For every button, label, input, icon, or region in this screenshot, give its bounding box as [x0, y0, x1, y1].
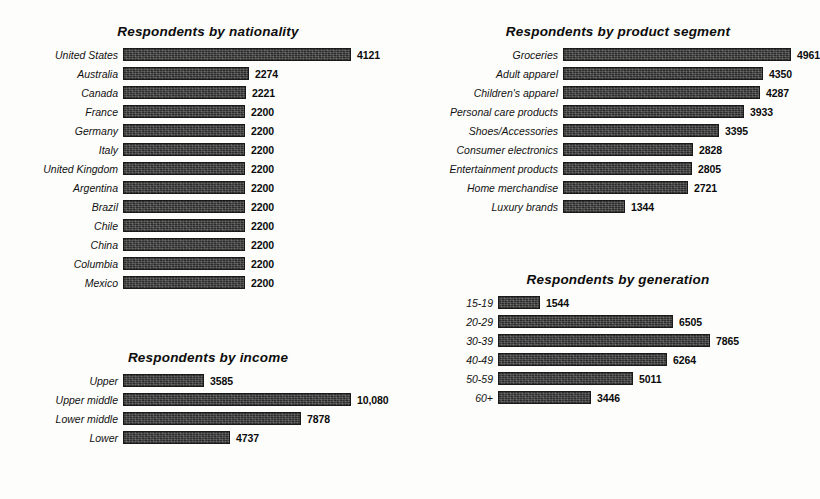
bar-value-label: 3446 [591, 392, 620, 404]
bar [123, 238, 245, 251]
bar-value-label: 4737 [230, 432, 259, 444]
bar [563, 86, 760, 99]
bar-and-value: 3933 [563, 105, 773, 118]
bar-and-value: 1344 [563, 200, 654, 213]
bar [123, 181, 245, 194]
bar-and-value: 2200 [123, 257, 274, 270]
bar-category-label: Chile [8, 220, 123, 232]
bar-and-value: 2200 [123, 162, 274, 175]
bar-category-label: Lower [8, 432, 123, 444]
bar-value-label: 2721 [688, 182, 717, 194]
bar-and-value: 2828 [563, 143, 722, 156]
bar-value-label: 2200 [245, 144, 274, 156]
bar-value-label: 2200 [245, 106, 274, 118]
bar-category-label: China [8, 239, 123, 251]
bar-row: Columbia2200 [8, 255, 408, 272]
bar-value-label: 2200 [245, 277, 274, 289]
chart-panel-product-segment: Respondents by product segment Groceries… [418, 24, 818, 217]
bar-and-value: 3585 [123, 374, 233, 387]
bar-row: Home merchandise2721 [418, 179, 818, 196]
bar-and-value: 2200 [123, 105, 274, 118]
bar-and-value: 4961 [563, 48, 820, 61]
chart-title-nationality: Respondents by nationality [8, 24, 408, 39]
bar-value-label: 1544 [540, 297, 569, 309]
bar-row: Argentina2200 [8, 179, 408, 196]
bar-category-label: Luxury brands [418, 201, 563, 213]
bar-row: Chile2200 [8, 217, 408, 234]
bar-row: United Kingdom2200 [8, 160, 408, 177]
chart-panel-generation: Respondents by generation 15-19154420-29… [418, 272, 818, 408]
bar-value-label: 4350 [763, 68, 792, 80]
bar-row: 50-595011 [418, 370, 818, 387]
bar [123, 257, 245, 270]
bar-category-label: Children's apparel [418, 87, 563, 99]
bar-value-label: 6264 [667, 354, 696, 366]
bar-row: Shoes/Accessories3395 [418, 122, 818, 139]
bar-category-label: United Kingdom [8, 163, 123, 175]
bar-row: 30-397865 [418, 332, 818, 349]
bar-and-value: 2274 [123, 67, 278, 80]
bar [498, 353, 667, 366]
bar-row: France2200 [8, 103, 408, 120]
bar-and-value: 2200 [123, 181, 274, 194]
bar-category-label: 50-59 [418, 373, 498, 385]
bar-value-label: 1344 [625, 201, 654, 213]
bar-and-value: 1544 [498, 296, 569, 309]
bar-category-label: Canada [8, 87, 123, 99]
bar-and-value: 7865 [498, 334, 739, 347]
bar-value-label: 2274 [249, 68, 278, 80]
bar-category-label: Lower middle [8, 413, 123, 425]
bar-value-label: 2200 [245, 239, 274, 251]
bar-row: Luxury brands1344 [418, 198, 818, 215]
bar-category-label: Personal care products [418, 106, 563, 118]
bar-value-label: 3585 [204, 375, 233, 387]
bar-and-value: 3395 [563, 124, 748, 137]
bar-row: Germany2200 [8, 122, 408, 139]
bar-and-value: 4350 [563, 67, 792, 80]
bar [563, 200, 625, 213]
chart-title-product-segment: Respondents by product segment [418, 24, 818, 39]
bar-row: Groceries4961 [418, 46, 818, 63]
bar-row: Lower4737 [8, 429, 408, 446]
bar [123, 393, 351, 406]
bar [563, 162, 692, 175]
bar [498, 391, 591, 404]
bar-value-label: 3933 [744, 106, 773, 118]
bar-row: Brazil2200 [8, 198, 408, 215]
bar-and-value: 2200 [123, 200, 274, 213]
chart-title-income: Respondents by income [8, 350, 408, 365]
bar-value-label: 7865 [710, 335, 739, 347]
chart-title-generation: Respondents by generation [418, 272, 818, 287]
bar [498, 372, 633, 385]
bar-category-label: 15-19 [418, 297, 498, 309]
bar-value-label: 2805 [692, 163, 721, 175]
bar-row: Adult apparel4350 [418, 65, 818, 82]
bar-rows-income: Upper3585Upper middle10,080Lower middle7… [8, 372, 408, 446]
bar-category-label: 30-39 [418, 335, 498, 347]
bar-value-label: 10,080 [351, 394, 389, 406]
bar [123, 431, 230, 444]
bar [563, 124, 719, 137]
bar-and-value: 2221 [123, 86, 275, 99]
bar-and-value: 2805 [563, 162, 721, 175]
bar-category-label: Consumer electronics [418, 144, 563, 156]
bar-value-label: 2200 [245, 125, 274, 137]
bar [123, 105, 245, 118]
bar-row: Upper middle10,080 [8, 391, 408, 408]
bar-row: 20-296505 [418, 313, 818, 330]
bar-value-label: 4287 [760, 87, 789, 99]
bar-value-label: 2200 [245, 163, 274, 175]
bar [498, 296, 540, 309]
bar-and-value: 4121 [123, 48, 380, 61]
bar-and-value: 3446 [498, 391, 620, 404]
bar-row: Canada2221 [8, 84, 408, 101]
bar-and-value: 2200 [123, 143, 274, 156]
bar-category-label: Shoes/Accessories [418, 125, 563, 137]
bar [498, 315, 673, 328]
bar-and-value: 7878 [123, 412, 330, 425]
bar-value-label: 5011 [633, 373, 661, 385]
bar [123, 162, 245, 175]
bar [123, 412, 301, 425]
bar-row: Upper3585 [8, 372, 408, 389]
